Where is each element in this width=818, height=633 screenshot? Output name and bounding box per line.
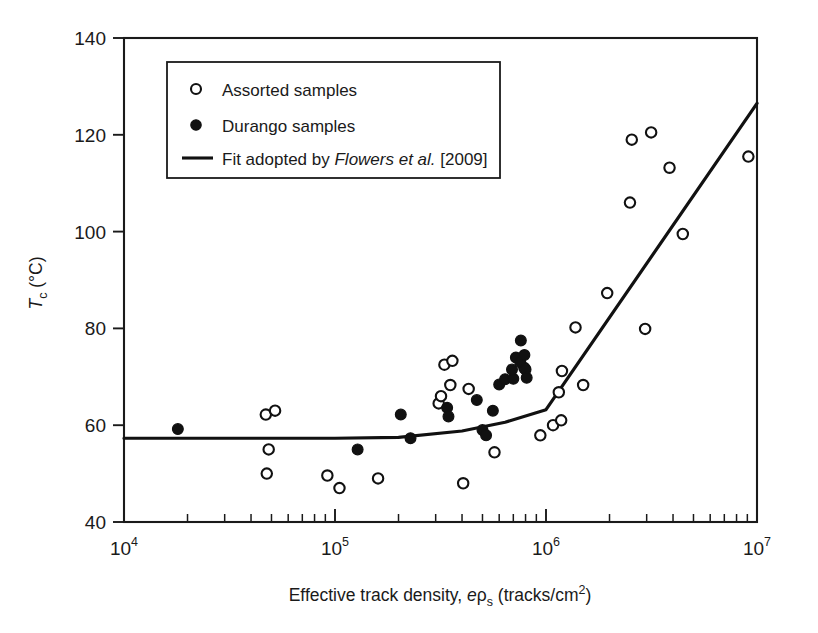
y-axis-ticks xyxy=(113,38,124,522)
legend-label-fit: Fit adopted by Flowers et al. [2009] xyxy=(222,150,488,169)
data-point-assorted xyxy=(646,127,656,137)
data-point-assorted xyxy=(664,163,674,173)
data-point-durango xyxy=(521,372,532,383)
data-point-durango xyxy=(405,433,416,444)
y-axis-tick-labels: 406080100120140 xyxy=(74,28,106,533)
svg-text:80: 80 xyxy=(85,318,106,339)
data-point-assorted xyxy=(445,380,455,390)
data-point-durango xyxy=(352,444,363,455)
legend-label-assorted: Assorted samples xyxy=(222,81,357,100)
svg-text:140: 140 xyxy=(74,28,106,49)
data-point-durango xyxy=(471,395,482,406)
data-point-assorted xyxy=(447,356,457,366)
data-point-assorted xyxy=(263,444,273,454)
data-point-assorted xyxy=(640,324,650,334)
data-point-assorted xyxy=(627,134,637,144)
data-point-assorted xyxy=(557,366,567,376)
data-point-assorted xyxy=(463,384,473,394)
data-point-durango xyxy=(519,350,530,361)
data-point-assorted xyxy=(436,391,446,401)
svg-text:100: 100 xyxy=(74,222,106,243)
data-point-assorted xyxy=(602,288,612,298)
data-point-assorted xyxy=(458,478,468,488)
data-point-assorted xyxy=(554,387,564,397)
legend-label-durango: Durango samples xyxy=(222,117,355,136)
svg-text:107: 107 xyxy=(743,535,771,559)
legend-filled-circle-icon xyxy=(191,120,201,130)
svg-text:106: 106 xyxy=(532,535,560,559)
data-point-assorted xyxy=(334,483,344,493)
data-point-durango xyxy=(443,411,454,422)
svg-text:120: 120 xyxy=(74,125,106,146)
svg-text:60: 60 xyxy=(85,415,106,436)
y-axis-title: Tc (°C) xyxy=(26,256,50,309)
x-axis-title: Effective track density, eρs (tracks/cm2… xyxy=(289,583,592,609)
data-point-assorted xyxy=(570,322,580,332)
svg-text:104: 104 xyxy=(110,535,138,559)
data-point-durango xyxy=(172,424,183,435)
data-point-durango xyxy=(487,405,498,416)
figure-container: 104105106107 406080100120140 Assorted sa… xyxy=(0,0,818,633)
data-point-assorted xyxy=(489,447,499,457)
svg-text:105: 105 xyxy=(321,535,349,559)
data-point-durango xyxy=(395,409,406,420)
data-point-assorted xyxy=(373,473,383,483)
data-point-assorted xyxy=(743,151,753,161)
x-axis-major-ticks xyxy=(124,509,757,522)
data-point-durango xyxy=(481,430,492,441)
chart-legend: Assorted samples Durango samples Fit ado… xyxy=(167,62,500,178)
data-point-assorted xyxy=(322,470,332,480)
data-point-assorted xyxy=(678,229,688,239)
data-point-assorted xyxy=(262,468,272,478)
chart-canvas: 104105106107 406080100120140 Assorted sa… xyxy=(0,0,818,633)
svg-text:40: 40 xyxy=(85,512,106,533)
x-axis-minor-ticks xyxy=(188,514,748,522)
data-point-assorted xyxy=(270,405,280,415)
data-point-durango xyxy=(515,335,526,346)
data-point-assorted xyxy=(578,380,588,390)
x-axis-tick-labels: 104105106107 xyxy=(110,535,771,559)
legend-open-circle-icon xyxy=(191,84,201,94)
data-point-assorted xyxy=(556,415,566,425)
data-point-assorted xyxy=(625,197,635,207)
data-point-assorted xyxy=(535,430,545,440)
